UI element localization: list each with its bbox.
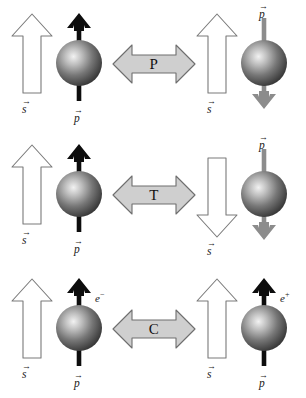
momentum-vector-label: →p: [74, 108, 83, 125]
momentum-arrowhead-up: [67, 278, 91, 296]
spin-vector-label: →s: [22, 364, 31, 381]
charge-label-electron: e−: [95, 290, 104, 304]
particle-sphere: [56, 171, 102, 217]
spin-arrow-up: [12, 14, 52, 93]
momentum-arrowhead-down: [252, 91, 276, 109]
spin-arrow-up: [197, 14, 237, 93]
spin-arrow-up: [12, 145, 52, 224]
particle-sphere: [241, 40, 287, 86]
particle-parity-left: →s →p: [10, 0, 116, 133]
particle-charge-right: e+ →s →p: [195, 265, 301, 398]
diagram-row-charge-conjugation: e− →s →p C: [0, 265, 306, 398]
spin-vector-label: →s: [207, 364, 216, 381]
particle-sphere: [56, 40, 102, 86]
operator-label-charge-conjugation: C: [112, 306, 196, 352]
particle-sphere: [241, 171, 287, 217]
particle-parity-right: →s →p: [195, 0, 301, 133]
diagram-row-parity: →s →p P: [0, 0, 306, 133]
charge-label-positron: e+: [280, 290, 289, 304]
momentum-vector-label: →p: [259, 135, 268, 152]
momentum-arrowhead-up: [67, 13, 91, 31]
particle-sphere: [56, 305, 102, 351]
spin-vector-label: →s: [207, 241, 216, 258]
particle-time-left: →s →p: [10, 131, 116, 264]
spin-arrow-up: [197, 279, 237, 358]
momentum-vector-label: →p: [74, 239, 83, 256]
spin-vector-label: →s: [22, 230, 31, 247]
momentum-vector-label: →p: [74, 373, 83, 390]
momentum-arrowhead-down: [252, 222, 276, 240]
particle-charge-left: e− →s →p: [10, 265, 116, 398]
momentum-vector-label: →p: [259, 373, 268, 390]
momentum-arrowhead-up: [252, 278, 276, 296]
operator-label-parity: P: [112, 41, 196, 87]
particle-sphere: [241, 305, 287, 351]
spin-vector-label: →s: [22, 99, 31, 116]
symmetry-transformation-diagram: →s →p P: [0, 0, 306, 398]
momentum-vector-label: →p: [259, 4, 268, 21]
momentum-arrowhead-up: [67, 144, 91, 162]
particle-time-right: →s →p: [195, 131, 301, 264]
spin-arrow-up: [12, 279, 52, 358]
spin-vector-label: →s: [207, 99, 216, 116]
spin-arrow-down: [197, 158, 237, 237]
operator-label-time-reversal: T: [112, 172, 196, 218]
diagram-row-time-reversal: →s →p T: [0, 131, 306, 264]
